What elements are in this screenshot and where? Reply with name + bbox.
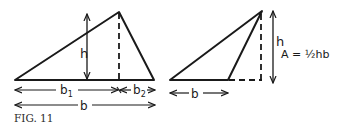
right-base-label: b	[191, 87, 199, 101]
b-total-label: b	[80, 99, 88, 113]
left-height-label: h	[80, 46, 88, 61]
left-triangle-panel: h b1 b2 b FIG. 11	[14, 12, 155, 124]
figure-11-diagram: h b1 b2 b FIG. 11 h A = ½hb b	[0, 0, 337, 130]
b2-label: b2	[133, 83, 146, 99]
b1-label: b1	[60, 83, 73, 99]
right-triangle-panel: h A = ½hb b	[170, 11, 329, 101]
right-triangle	[170, 11, 262, 80]
area-formula: A = ½hb	[281, 48, 329, 61]
right-height-label: h	[276, 34, 284, 49]
figure-caption: FIG. 11	[14, 112, 53, 124]
